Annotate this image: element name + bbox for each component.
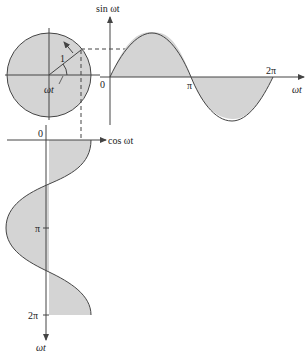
radius-label: 1 xyxy=(60,53,65,64)
sine-fill xyxy=(110,32,273,119)
sine-y-label: sin ωt xyxy=(96,3,120,14)
sine-x-label: ωt xyxy=(292,84,302,95)
sine-tick-pi: π xyxy=(187,80,192,91)
sine-tick-2pi: 2π xyxy=(266,65,276,76)
sine-origin-label: 0 xyxy=(100,79,105,90)
cosine-tick-pi: π xyxy=(35,223,40,234)
diagram-canvas: 1 ωt sin ωt ωt 0 π 2π cos ωt ωt 0 π 2π xyxy=(0,0,306,354)
phasor-diagram: 1 ωt sin ωt ωt 0 π 2π cos ωt ωt 0 π 2π xyxy=(0,0,306,354)
cosine-tick-2pi: 2π xyxy=(28,310,38,321)
cosine-x-label: cos ωt xyxy=(108,135,133,146)
cosine-y-label: ωt xyxy=(36,342,46,353)
angle-label: ωt xyxy=(44,84,54,95)
cosine-origin-label: 0 xyxy=(38,128,43,139)
